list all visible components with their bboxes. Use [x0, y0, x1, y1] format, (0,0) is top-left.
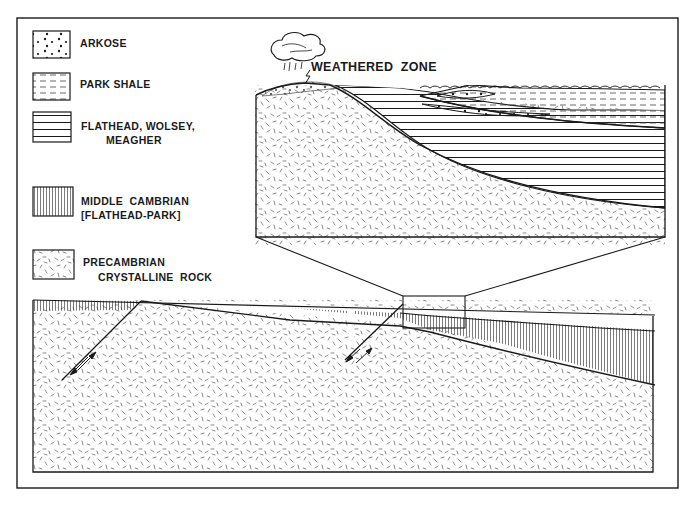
- legend-label-middle-cambrian-line2: [FLATHEAD-PARK]: [81, 209, 181, 221]
- main-cross-section: [33, 296, 655, 472]
- cross-section-figure: ARKOSE PARK SHALE FLATHEAD, WOLSEY, MEAG…: [0, 0, 695, 507]
- park-shale-swatch: [33, 73, 70, 100]
- legend-item-arkose: ARKOSE: [33, 31, 127, 58]
- precambrian-swatch: [33, 250, 74, 279]
- weathered-zone-label: WEATHERED ZONE: [311, 60, 437, 74]
- legend-label-middle-cambrian-line1: MIDDLE CAMBRIAN: [81, 195, 189, 207]
- legend-label-flathead-line2: MEAGHER: [106, 134, 162, 146]
- flathead-swatch: [33, 112, 71, 142]
- legend-item-precambrian: PRECAMBRIAN CRYSTALLINE ROCK: [33, 250, 212, 283]
- legend-item-flathead-wolsey-meagher: FLATHEAD, WOLSEY, MEAGHER: [33, 112, 195, 146]
- legend-label-precambrian-line2: CRYSTALLINE ROCK: [98, 271, 212, 283]
- inset-cross-section: [255, 82, 665, 245]
- projection-line-right: [465, 237, 665, 296]
- legend-item-middle-cambrian: MIDDLE CAMBRIAN [FLATHEAD-PARK]: [33, 187, 189, 221]
- projection-line-left: [256, 237, 403, 296]
- middle-cambrian-swatch: [33, 187, 73, 216]
- legend-label-flathead-line1: FLATHEAD, WOLSEY,: [81, 120, 195, 132]
- legend-label-park-shale: PARK SHALE: [80, 78, 150, 90]
- legend: ARKOSE PARK SHALE FLATHEAD, WOLSEY, MEAG…: [33, 31, 212, 283]
- legend-item-park-shale: PARK SHALE: [33, 73, 150, 100]
- arkose-swatch: [33, 31, 70, 58]
- legend-label-arkose: ARKOSE: [80, 37, 127, 49]
- legend-label-precambrian-line1: PRECAMBRIAN: [83, 256, 165, 268]
